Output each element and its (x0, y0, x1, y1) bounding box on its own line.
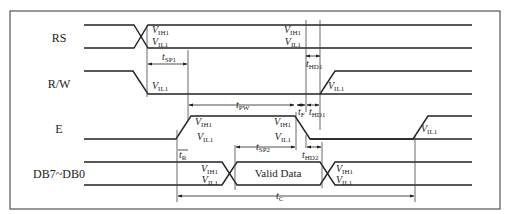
signal-label-e: E (55, 122, 62, 136)
timing-diagram: RS R/W E DB7~DB0 (0, 0, 512, 214)
label-thd2: tHD2 (302, 149, 319, 162)
rs-waveform-high (84, 25, 472, 48)
label-tsp2: tSP2 (256, 141, 271, 154)
label-tpw: tPW (236, 99, 250, 112)
label-thd1-mid: tHD1 (309, 106, 326, 119)
label-tr: tR (179, 149, 187, 162)
label-tsp1: tSP1 (162, 51, 177, 64)
rw-vil1-right: VIL1 (328, 80, 345, 93)
signal-label-rw: R/W (48, 77, 71, 91)
signal-label-db: DB7~DB0 (33, 167, 85, 181)
timing-labels: tSP1 tHD1 tPW tF tHD1 tR tSP2 tHD2 tC (162, 51, 326, 203)
label-tc: tC (276, 190, 284, 203)
label-tf: tF (298, 106, 305, 119)
e-vil1-right: VIL1 (275, 131, 292, 144)
e-vil1-left: VIL1 (197, 131, 214, 144)
e-vih1-left: VIH1 (195, 116, 212, 129)
rw-waveform (84, 71, 472, 94)
rs-vil1-left: VIL1 (152, 36, 169, 49)
valid-data-label: Valid Data (255, 167, 302, 179)
rs-waveform-low (84, 25, 472, 48)
rs-vil1-right: VIL1 (285, 36, 302, 49)
rw-vil1-left: VIL1 (152, 80, 169, 93)
e-vih1-right: VIH1 (274, 116, 291, 129)
signal-label-rs: RS (52, 31, 67, 45)
e-vil1-second: VIL1 (421, 123, 438, 136)
